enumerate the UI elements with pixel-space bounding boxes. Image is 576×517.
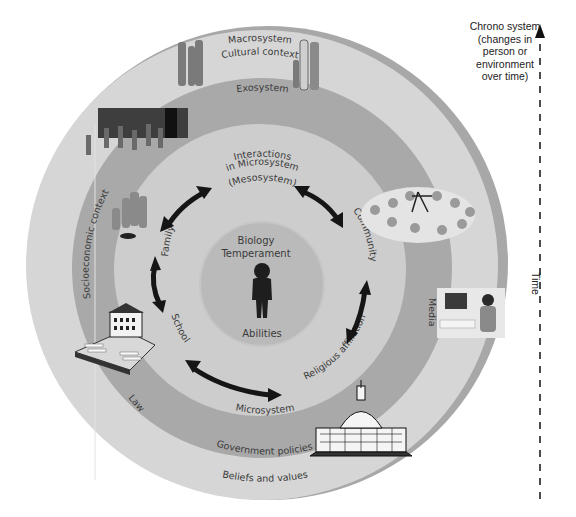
chrono-line2: (changes in [460,33,550,46]
temperament-label: Temperament [220,248,290,259]
chrono-line5: over time) [460,70,550,83]
abilities-label: Abilities [242,328,282,339]
media-tv-illustration [437,288,505,338]
playground-illustration [361,187,475,243]
chrono-line3: person or [460,45,550,58]
biology-label: Biology [238,235,275,246]
svg-text:Exosystem: Exosystem [236,81,290,94]
time-axis-label: Time [530,272,542,295]
chrono-line4: environment [460,58,550,71]
chrono-line1: Chrono system [460,20,550,33]
chronosystem-label: Chrono system (changes in person or envi… [460,20,550,83]
exosystem-label: Exosystem [236,81,290,94]
media-label: Media [427,298,438,327]
